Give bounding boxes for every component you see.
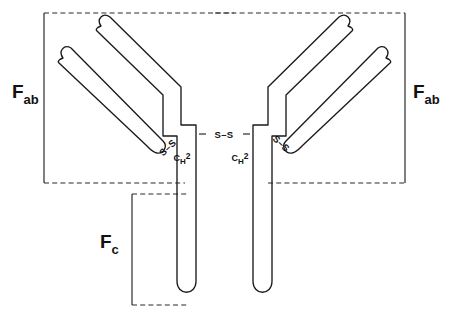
fc-label-sub: c	[112, 242, 119, 257]
light-chain-right	[284, 47, 391, 153]
hinge-center-ss-label: S–S	[214, 129, 233, 140]
svg-text:CH2: CH2	[173, 151, 190, 165]
fc-label-main: F	[100, 231, 112, 252]
fab-left-label: Fab	[12, 81, 39, 107]
antibody-structure-svg: S–S S–S S–S CH2 CH2 Fab	[0, 0, 450, 320]
light-chain-left	[58, 47, 165, 153]
ch2-left-num: 2	[186, 151, 191, 161]
fab-left-label-main: F	[12, 81, 24, 102]
svg-text:Fab: Fab	[413, 81, 440, 107]
svg-text:CH2: CH2	[231, 151, 248, 165]
svg-text:Fc: Fc	[100, 231, 119, 257]
disulfide-bond-hinge-center: S–S	[199, 129, 250, 140]
antibody-diagram: S–S S–S S–S CH2 CH2 Fab	[0, 0, 450, 320]
heavy-chain-right	[253, 15, 353, 292]
fab-right-label-sub: ab	[425, 92, 440, 107]
svg-text:Fab: Fab	[12, 81, 39, 107]
fab-left-label-sub: ab	[24, 92, 39, 107]
fab-right-label-main: F	[413, 81, 425, 102]
right-ss-label: S–S	[271, 133, 293, 154]
ch2-left-label: CH2	[173, 151, 190, 165]
disulfide-bond-light-heavy-right: S–S	[271, 133, 293, 154]
fab-right-label: Fab	[413, 81, 440, 107]
fab-left-bracket	[44, 13, 234, 183]
ch2-right-num: 2	[244, 151, 249, 161]
fc-label: Fc	[100, 231, 119, 257]
ch2-right-label: CH2	[231, 151, 248, 165]
